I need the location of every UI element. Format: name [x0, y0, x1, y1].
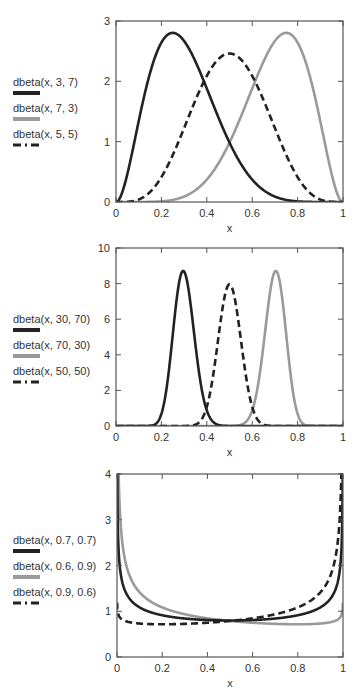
solid-gray-line-swatch	[13, 575, 40, 579]
legend-item: dbeta(x, 0.7, 0.7)	[13, 534, 96, 560]
chart-panel-3: 00.20.40.60.8101234x dbeta(x, 0.7, 0.7) …	[0, 0, 360, 700]
y-tick-label: 0	[105, 651, 111, 663]
y-tick-label: 3	[105, 514, 111, 526]
x-axis-title: x	[227, 677, 233, 689]
x-tick-label: 0.8	[290, 662, 305, 674]
solid-dark-line-swatch	[13, 549, 40, 553]
plot-frame	[117, 474, 343, 657]
series-group	[117, 383, 343, 625]
y-tick-label: 2	[105, 560, 111, 572]
x-tick-label: 0.4	[200, 662, 215, 674]
x-tick-label: 0.6	[245, 662, 260, 674]
legend-item: dbeta(x, 0.6, 0.9)	[13, 560, 96, 586]
legend-label: dbeta(x, 0.7, 0.7)	[13, 534, 96, 547]
series-line	[117, 421, 343, 620]
series-line	[117, 383, 343, 625]
x-tick-label: 0.2	[155, 662, 170, 674]
legend-3: dbeta(x, 0.7, 0.7) dbeta(x, 0.6, 0.9) db…	[13, 534, 96, 612]
dashed-line-swatch	[13, 601, 40, 605]
y-tick-label: 4	[105, 468, 111, 480]
legend-label: dbeta(x, 0.6, 0.9)	[13, 560, 96, 573]
x-tick-label: 1	[340, 662, 346, 674]
series-line	[117, 383, 343, 625]
legend-item: dbeta(x, 0.9, 0.6)	[13, 586, 96, 612]
legend-label: dbeta(x, 0.9, 0.6)	[13, 586, 96, 599]
y-tick-label: 1	[105, 605, 111, 617]
x-tick-label: 0	[114, 662, 120, 674]
